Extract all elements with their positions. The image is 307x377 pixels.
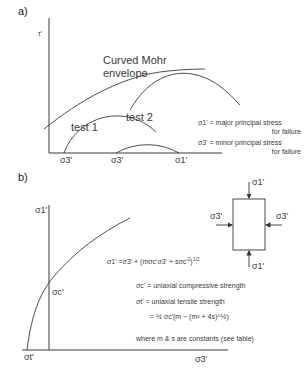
definition-sigma-t-text: = uniaxial tensile strength [146,298,225,305]
tensile-strength-formula: = ½ σc'(m − (m² + 4s)^½) [150,313,229,320]
element-left-sigma3-label: σ3' [210,212,222,221]
legend-sigma3-line2: for failure [272,148,301,155]
legend-sigma1-symbol: σ1' [198,119,208,126]
sigma1-axis-label: σ1' [35,206,47,215]
panel-a-label: a) [18,6,28,17]
criterion-outer-exponent: 1/2 [193,257,200,262]
panel-b-label: b) [18,172,28,183]
legend-sigma3-text: = minor principal stress [210,139,282,146]
x-tick-sigma3-test1: σ3' [60,156,72,165]
sigma-t-label: σt' [24,353,34,362]
definition-sigma-t: σt' = uniaxial tensile strength [136,298,225,305]
definition-sigma-c-symbol: σc' [136,282,145,289]
definition-sigma-c: σc' = uniaxial compressive strength [136,282,245,289]
legend-sigma1-line2: for failure [272,128,301,135]
hoek-brown-criterion: σ1' =σ3' + (mσc'σ3' + sσc'2)1/2 [107,258,200,265]
stress-element [216,182,282,267]
x-tick-sigma1: σ1' [175,156,187,165]
legend-sigma1-line1: σ1' = major principal stress [198,119,282,126]
tau-axis-label: τ' [38,30,42,37]
envelope-label-line1: Curved Mohr [103,55,167,66]
legend-sigma1-text: = major principal stress [210,119,282,126]
sigma3-axis-label: σ3' [195,355,207,364]
definition-sigma-t-symbol: σt' [136,298,144,305]
definition-sigma-c-text: = uniaxial compressive strength [147,282,245,289]
element-right-sigma3-label: σ3' [276,212,288,221]
sigma-c-label: σc' [52,288,64,297]
test-1-label: test 1 [71,122,98,133]
element-bottom-sigma1-label: σ1' [252,262,264,271]
criterion-main: σ1' =σ3' + (mσc'σ3' + sσc' [107,258,188,265]
legend-sigma3-line1: σ3' = minor principal stress [198,139,282,146]
test-2-label: test 2 [126,112,153,123]
x-tick-sigma3-test2: σ3' [111,156,123,165]
hoek-brown-failure-curve [27,218,130,350]
constants-note: where m & s are constants (see table) [136,335,254,342]
legend-sigma3-symbol: σ3' [198,139,208,146]
mohr-circle-test-2 [116,145,179,153]
element-top-sigma1-label: σ1' [252,178,264,187]
envelope-label-line2: envelope [103,68,148,79]
